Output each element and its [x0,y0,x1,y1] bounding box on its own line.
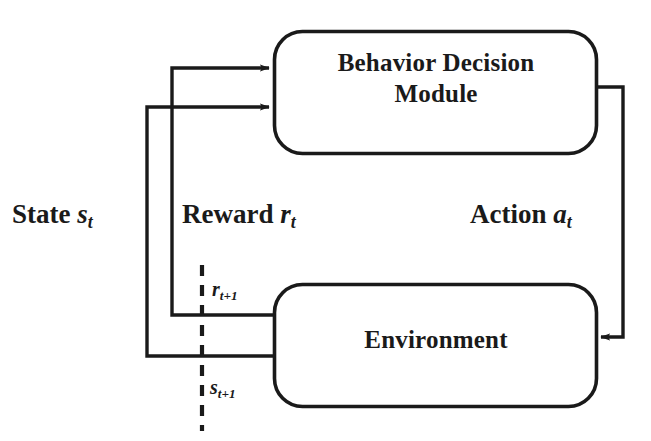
state-edge-label-prefix: State [12,199,70,229]
diagram-canvas: Behavior Decision Module Environment Sta… [0,0,651,441]
state-next-sub: t+1 [218,386,236,401]
behavior-decision-module-label: Behavior Decision Module [276,48,596,109]
behavior-decision-module-label-line1: Behavior Decision [276,48,596,79]
reward-edge-label-sub: t [291,212,296,232]
action-edge-label-var: a [553,199,567,229]
action-edge-label-sub: t [567,212,572,232]
state-edge-label-var: s [77,199,88,229]
reward-edge-label: Reward rt [182,199,296,230]
state-next-annotation: st+1 [210,376,236,399]
behavior-decision-module-label-line2: Module [276,79,596,110]
action-edge-label-prefix: Action [470,199,547,229]
reward-next-annotation: rt+1 [212,278,238,301]
action-edge-label: Action at [470,199,572,230]
state-edge-path [147,107,273,356]
reward-next-var: r [212,278,220,300]
environment-label-line1: Environment [276,325,596,356]
state-edge-label-sub: t [88,212,93,232]
state-edge-label: State st [12,199,93,230]
environment-label: Environment [276,325,596,356]
reward-edge-label-prefix: Reward [182,199,273,229]
reward-edge-label-var: r [280,199,291,229]
state-next-var: s [210,376,218,398]
reward-next-sub: t+1 [220,288,238,303]
action-edge-path [597,87,623,337]
